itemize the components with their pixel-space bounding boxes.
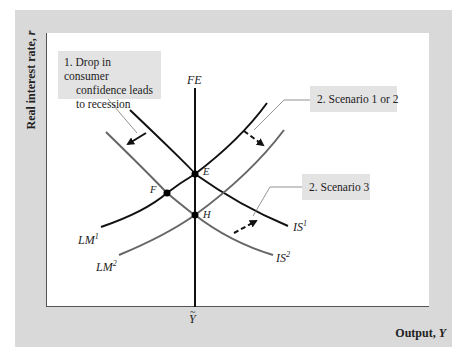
point-e-label: E — [203, 166, 209, 177]
is2-label: IS2 — [276, 250, 290, 266]
annotation-scenario-3: 2. Scenario 3 — [302, 174, 370, 200]
is-shift-arrow — [128, 133, 146, 144]
annotation-recession: 1. Drop in consumer confidence leads to … — [58, 51, 161, 99]
annotation-scenario-1-2: 2. Scenario 1 or 2 — [310, 86, 397, 112]
is2-curve — [106, 132, 273, 255]
point-h — [192, 212, 199, 219]
lm2-curve — [119, 130, 284, 255]
lm2-label: LM2 — [96, 259, 117, 275]
fe-label: FE — [187, 73, 202, 88]
lm1-curve — [101, 103, 267, 227]
is1-label: IS1 — [293, 219, 307, 235]
full-employment-output-label: ~Y — [189, 312, 196, 327]
point-f-label: F — [150, 184, 156, 195]
lm1-label: LM1 — [78, 232, 99, 248]
note2-connector — [254, 100, 310, 130]
point-h-label: H — [203, 209, 211, 220]
point-e — [192, 171, 199, 178]
scenario3-arrow — [234, 221, 256, 233]
lm-shift-arrow — [244, 131, 263, 145]
note3-connector — [253, 187, 302, 216]
point-f — [164, 190, 171, 197]
